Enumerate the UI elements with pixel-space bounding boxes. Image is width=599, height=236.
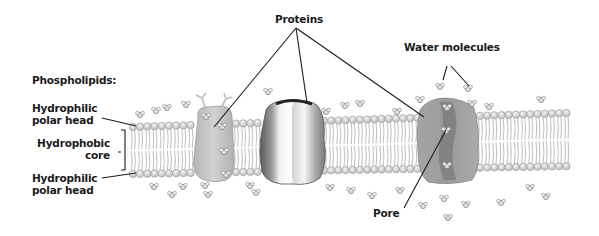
label-pore: Pore (373, 207, 399, 219)
label-hydrophobic-line1: Hydrophobic (32, 137, 110, 149)
label-hydrophobic-line2: core (32, 149, 110, 161)
label-hydrophilic-top-line2: polar head (32, 114, 93, 126)
protein-glycoprotein (194, 93, 235, 182)
label-hydrophilic-bottom-line2: polar head (32, 184, 93, 196)
label-phospholipids: Phospholipids: (32, 74, 116, 86)
protein-pore (417, 98, 478, 184)
label-hydrophilic-bottom-line1: Hydrophilic (32, 172, 97, 184)
label-hydrophilic-top-line1: Hydrophilic (32, 102, 97, 114)
protein-channel (260, 100, 325, 184)
label-proteins: Proteins (275, 13, 323, 25)
membrane-diagram: Proteins Water molecules Phospholipids: … (0, 0, 599, 236)
label-water-molecules: Water molecules (404, 41, 500, 53)
